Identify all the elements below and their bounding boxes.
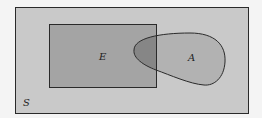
venn-diagram: E A S	[0, 0, 262, 118]
label-e: E	[98, 51, 107, 62]
label-a: A	[187, 52, 195, 63]
label-s: S	[23, 97, 30, 108]
